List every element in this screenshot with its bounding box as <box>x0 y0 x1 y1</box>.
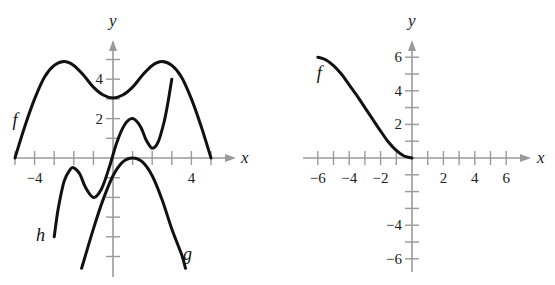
x-axis-arrow-icon <box>225 154 236 162</box>
x-tick-label: 4 <box>188 170 196 186</box>
x-axis-arrow-icon <box>520 154 531 162</box>
y-tick-label: −6 <box>386 251 402 267</box>
y-tick-label: 4 <box>96 71 104 87</box>
x-tick-label: −2 <box>373 170 389 186</box>
y-tick-label: −4 <box>386 217 402 233</box>
y-axis-arrow-icon <box>408 40 416 51</box>
y-tick-label: 2 <box>395 116 403 132</box>
x-axis-label: x <box>240 148 249 167</box>
function-label-f: f <box>12 110 20 130</box>
x-tick-label: −4 <box>341 170 357 186</box>
x-tick-label: 2 <box>440 170 448 186</box>
x-axis-label: x <box>536 148 545 167</box>
y-tick-label: 6 <box>395 49 403 65</box>
y-axis-arrow-icon <box>109 40 117 51</box>
x-tick-label: −6 <box>310 170 326 186</box>
function-label-g: g <box>183 244 192 264</box>
x-tick-label: 6 <box>502 170 510 186</box>
y-axis-label: y <box>107 11 117 30</box>
x-tick-label: −4 <box>27 170 43 186</box>
function-label-h: h <box>36 225 45 245</box>
function-graphs-figure: −4424xyfhg −6−4−2246642−4−6xyf <box>0 0 555 285</box>
y-tick-label: 2 <box>96 111 104 127</box>
right-graph-panel: −6−4−2246642−4−6xyf <box>303 11 545 272</box>
y-tick-label: 4 <box>395 83 403 99</box>
function-label-f: f <box>317 63 325 83</box>
left-graph-panel: −4424xyfhg <box>12 11 249 277</box>
curve-f <box>318 57 412 158</box>
curve-g <box>82 158 186 268</box>
y-axis-label: y <box>406 11 416 30</box>
x-tick-label: 4 <box>471 170 479 186</box>
